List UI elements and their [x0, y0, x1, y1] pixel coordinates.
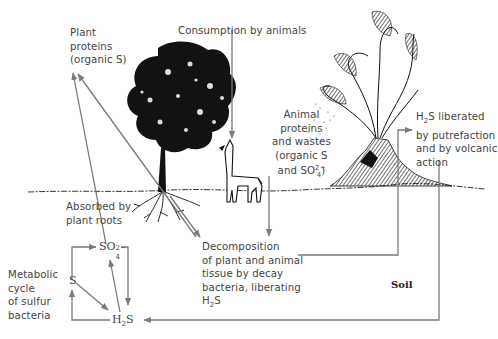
label-line-h2s: H2S liberated	[416, 110, 497, 129]
superscript: 2−	[116, 244, 126, 252]
label-line: and wastes	[272, 135, 331, 149]
label-text: S liberated	[428, 111, 484, 122]
label-line-so4: and SO2−4)	[272, 162, 331, 183]
label-line: proteins	[70, 40, 127, 54]
label-line: (organic S)	[70, 53, 127, 67]
label-text: and SO	[278, 165, 316, 176]
label-line: tissue by decay	[202, 267, 303, 281]
label-line: cycle	[8, 282, 58, 296]
chem-text: S	[126, 313, 134, 326]
label-text: S	[214, 295, 221, 306]
label-animal-proteins: Animal proteins and wastes (organic S an…	[272, 108, 331, 183]
label-line: Metabolic	[8, 268, 58, 282]
arrow-s-to-h2s	[76, 283, 108, 310]
label-line: of plant and animal	[202, 254, 303, 268]
label-metabolic-cycle: Metabolic cycle of sulfur bacteria	[8, 268, 58, 322]
label-line: Animal	[272, 108, 331, 122]
label-decomposition: Decomposition of plant and animal tissue…	[202, 240, 303, 313]
label-line: action	[416, 156, 497, 170]
node-sulfur: S	[69, 274, 77, 287]
label-consumption: Consumption by animals	[178, 24, 306, 38]
label-line: bacteria, liberating	[202, 281, 303, 295]
label-line-h2s: H2S	[202, 294, 303, 313]
label-h2s-liberated: H2S liberated by putrefaction and by vol…	[416, 110, 497, 169]
label-plant-proteins: Plant proteins (organic S)	[70, 26, 127, 67]
label-line: by putrefaction	[416, 129, 497, 143]
label-line: Absorbed by	[66, 200, 131, 214]
sulfur-cycle-diagram: Plant proteins (organic S) Consumption b…	[0, 0, 498, 339]
label-text: )	[321, 165, 325, 176]
label-line: Decomposition	[202, 240, 303, 254]
llama-illustration	[220, 140, 262, 202]
subscript: 4	[116, 253, 120, 261]
label-line: and by volcanic	[416, 142, 497, 156]
node-sulfate: SO2−4	[99, 240, 123, 253]
label-absorbed-by-roots: Absorbed by plant roots	[66, 200, 131, 227]
arrow-h2s-to-so4	[110, 260, 120, 312]
label-line: Plant	[70, 26, 127, 40]
label-line: of sulfur	[8, 295, 58, 309]
label-line: proteins	[272, 122, 331, 136]
chem-text: H	[112, 313, 122, 326]
label-text: H	[202, 295, 210, 306]
chem-text: SO	[99, 240, 116, 253]
arrow-to-decomposition	[170, 196, 200, 237]
label-line: bacteria	[8, 309, 58, 323]
arrow-h2s-to-s	[72, 290, 110, 320]
tree-illustration	[127, 41, 236, 222]
label-text: H	[416, 111, 424, 122]
label-line: (organic S	[272, 149, 331, 163]
node-hydrogen-sulfide: H2S	[112, 313, 134, 328]
arrow-so4-to-h2s	[121, 247, 128, 305]
label-line: plant roots	[66, 214, 131, 228]
label-soil: Soil	[391, 279, 413, 290]
